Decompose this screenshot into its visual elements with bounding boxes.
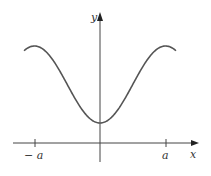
y-axis-label: y	[90, 11, 98, 24]
pos-a-label: a	[162, 149, 169, 162]
x-axis-label: x	[190, 148, 197, 161]
y-axis-arrow-icon	[97, 12, 103, 21]
function-plot: y x − a a	[0, 0, 211, 176]
neg-a-label: − a	[24, 149, 43, 162]
x-axis-arrow-icon	[191, 140, 199, 146]
